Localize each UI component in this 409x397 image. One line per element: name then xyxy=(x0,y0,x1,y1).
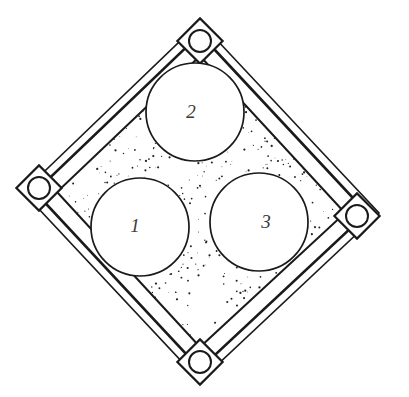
cavity-circle-3 xyxy=(210,173,308,271)
figure-svg: 123 xyxy=(0,0,409,397)
bottom-bolt-ring xyxy=(189,351,211,373)
cavity-circle-1 xyxy=(91,178,189,276)
cavity-label-1: 1 xyxy=(130,215,140,236)
top-bolt-ring xyxy=(189,30,211,52)
left-bolt-ring xyxy=(28,177,50,199)
cavity-label-3: 3 xyxy=(260,211,271,232)
technical-drawing-canvas: 123 xyxy=(0,0,409,397)
cavity-label-2: 2 xyxy=(186,101,196,122)
right-bolt-ring xyxy=(346,205,368,227)
